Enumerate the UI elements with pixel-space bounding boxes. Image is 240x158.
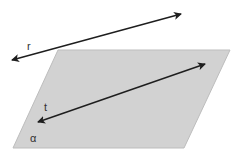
label-r: r	[27, 40, 31, 52]
diagram-canvas: r t α	[0, 0, 240, 158]
label-t: t	[44, 101, 47, 113]
label-alpha: α	[30, 132, 37, 144]
plane-alpha	[13, 50, 230, 148]
